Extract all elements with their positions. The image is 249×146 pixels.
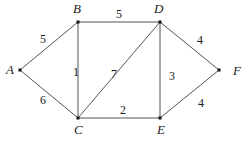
node-label-F: F [232,63,242,78]
edge-weight-C-D: 7 [111,67,117,81]
node-label-B: B [73,1,81,16]
node-label-C: C [74,122,83,137]
node-F [218,69,221,72]
edge-C-D [78,22,160,118]
edge-A-B [20,22,78,70]
node-label-E: E [156,122,165,137]
edge-weight-E-F: 4 [198,96,204,110]
node-A [19,69,22,72]
edge-weight-D-E: 3 [169,69,175,83]
graph-labels: 565173424ABDFCE [5,1,242,137]
node-D [159,21,162,24]
edge-weight-B-D: 5 [116,7,122,21]
node-C [77,117,80,120]
edge-D-F [160,22,219,70]
node-label-D: D [153,1,164,16]
edge-weight-A-B: 5 [40,32,46,46]
weighted-graph: 565173424ABDFCE [0,0,249,146]
node-B [77,21,80,24]
edge-weight-B-C: 1 [73,65,79,79]
node-label-A: A [5,62,14,77]
node-E [159,117,162,120]
edge-weight-D-F: 4 [197,33,203,47]
edge-weight-C-E: 2 [120,103,126,117]
edge-weight-A-C: 6 [40,93,46,107]
edge-A-C [20,70,78,118]
